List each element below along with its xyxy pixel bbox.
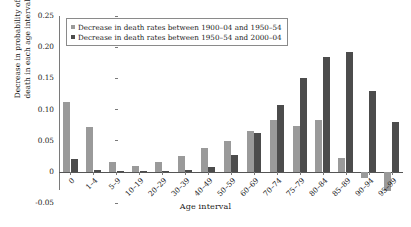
bar-series-0 <box>178 156 185 172</box>
bar-series-0 <box>247 131 254 172</box>
bar-series-0 <box>315 120 322 172</box>
bar-series-0 <box>86 127 93 172</box>
x-axis-tick-label: 80–84 <box>307 176 329 198</box>
chart-figure: Decrease in probability of death in each… <box>0 0 411 227</box>
y-axis-tick-label: 0.15 <box>38 73 54 82</box>
x-axis-tick-label: 10–19 <box>124 176 146 198</box>
bar-group <box>315 16 330 190</box>
bar-group <box>361 16 376 190</box>
x-axis-tick-label: 95–99 <box>376 176 398 198</box>
y-axis-tick-labels: 0.250.200.150.100.050-0.05 <box>0 0 59 227</box>
legend-label-series-1: Decrease in death rates between 1950–54 … <box>78 33 282 42</box>
bar-series-0 <box>63 102 70 173</box>
x-axis-tick-mark <box>277 172 278 175</box>
bar-series-0 <box>109 162 116 172</box>
legend-label-series-0: Decrease in death rates between 1900–04 … <box>78 23 282 32</box>
y-axis-tick-label: 0.25 <box>38 11 54 20</box>
x-axis-tick-mark <box>139 172 140 175</box>
bar-series-0 <box>224 141 231 172</box>
x-axis-tick-mark <box>369 172 370 175</box>
x-axis-tick-label: 40–49 <box>192 176 214 198</box>
bar-series-1 <box>254 133 261 172</box>
x-axis-tick-mark <box>185 172 186 175</box>
bar-series-0 <box>201 148 208 172</box>
bar-series-1 <box>277 105 284 172</box>
bar-series-1 <box>323 57 330 172</box>
bar-series-0 <box>338 158 345 172</box>
x-axis-tick-mark <box>231 172 232 175</box>
bar-group <box>384 16 399 190</box>
bar-group <box>338 16 353 190</box>
x-axis-tick-mark <box>208 172 209 175</box>
x-axis-tick-label: 75–79 <box>284 176 306 198</box>
x-axis-tick-mark <box>300 172 301 175</box>
bar-series-1 <box>231 155 238 172</box>
x-axis-tick-mark <box>346 172 347 175</box>
bar-series-1 <box>71 159 78 172</box>
x-axis-tick-mark <box>162 172 163 175</box>
y-axis-tick-label: 0.20 <box>38 42 54 51</box>
y-axis-tick-label: 0 <box>49 167 54 176</box>
legend-swatch-icon-series-0 <box>71 25 75 29</box>
x-axis-tick-label: 20–29 <box>146 176 168 198</box>
x-axis-tick-label: 85–89 <box>330 176 352 198</box>
legend-swatch-icon-series-1 <box>71 35 75 39</box>
y-axis-tick-label: 0.10 <box>38 105 54 114</box>
x-axis-tick-mark <box>70 172 71 175</box>
x-axis-tick-label: 0 <box>67 176 77 186</box>
bar-series-0 <box>270 120 277 172</box>
bar-series-0 <box>155 162 162 172</box>
x-axis-tick-label: 90–94 <box>353 176 375 198</box>
bar-series-1 <box>369 91 376 172</box>
bar-series-1 <box>392 122 399 172</box>
x-axis-title: Age interval <box>0 202 411 211</box>
x-axis-tick-mark <box>254 172 255 175</box>
x-axis-tick-label: 5–9 <box>107 176 123 192</box>
chart-legend: Decrease in death rates between 1900–04 … <box>66 18 288 46</box>
legend-item-series-1: Decrease in death rates between 1950–54 … <box>71 32 282 42</box>
x-axis-tick-mark <box>93 172 94 175</box>
bar-group <box>293 16 308 190</box>
bar-series-1 <box>346 52 353 172</box>
x-axis-tick-mark <box>392 172 393 175</box>
x-axis-tick-label: 60–69 <box>238 176 260 198</box>
bar-series-0 <box>293 126 300 172</box>
x-axis-tick-label: 1–4 <box>84 176 100 192</box>
x-axis-tick-label: 30–39 <box>169 176 191 198</box>
x-axis-tick-mark <box>116 172 117 175</box>
y-axis-tick-label: 0.05 <box>38 136 54 145</box>
legend-item-series-0: Decrease in death rates between 1900–04 … <box>71 22 282 32</box>
x-axis-tick-mark <box>323 172 324 175</box>
x-axis-tick-label: 50–59 <box>215 176 237 198</box>
x-axis-tick-label: 70–74 <box>261 176 283 198</box>
bar-series-1 <box>300 78 307 172</box>
